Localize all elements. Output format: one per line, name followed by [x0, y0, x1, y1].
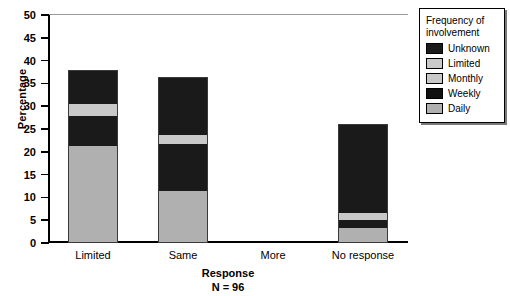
y-tick-label-20: 20	[0, 147, 36, 157]
y-tick-40	[41, 60, 49, 62]
legend-title: Frequency of involvement	[426, 15, 499, 38]
y-tick-30	[41, 105, 49, 107]
bar-segment-limited	[68, 104, 118, 112]
legend-swatch-daily	[426, 103, 443, 114]
bar-segment-daily	[158, 191, 208, 243]
y-tick-label-0: 0	[0, 238, 36, 248]
bar-segment-daily	[338, 228, 388, 243]
y-tick-10	[41, 197, 49, 199]
legend-item-weekly[interactable]: Weekly	[426, 86, 499, 100]
bar-no-response[interactable]	[338, 124, 388, 243]
bar-segment-unknown	[338, 124, 388, 213]
legend-label-daily: Daily	[448, 103, 470, 114]
stacked-bar-chart: Percentage 05101520253035404550 LimitedS…	[0, 0, 510, 296]
legend-item-limited[interactable]: Limited	[426, 56, 499, 70]
legend-label-monthly: Monthly	[448, 73, 483, 84]
legend-item-monthly[interactable]: Monthly	[426, 71, 499, 85]
y-tick-label-10: 10	[0, 192, 36, 202]
legend-swatch-limited	[426, 58, 443, 69]
y-tick-label-15: 15	[0, 170, 36, 180]
y-tick-label-40: 40	[0, 56, 36, 66]
bar-limited[interactable]	[68, 70, 118, 243]
x-axis-title: Response	[48, 267, 408, 280]
y-tick-label-30: 30	[0, 101, 36, 111]
bar-segment-unknown	[68, 70, 118, 104]
y-tick-35	[41, 83, 49, 85]
legend-item-daily[interactable]: Daily	[426, 101, 499, 115]
legend-title-line2: involvement	[426, 27, 499, 39]
legend-swatch-monthly	[426, 73, 443, 84]
bar-same[interactable]	[158, 77, 208, 243]
x-axis-subtitle: N = 96	[48, 281, 408, 293]
bar-segment-limited	[158, 135, 208, 144]
y-tick-50	[41, 14, 49, 16]
legend-label-limited: Limited	[448, 58, 480, 69]
bar-segment-unknown	[158, 77, 208, 135]
bar-segment-weekly	[68, 116, 118, 146]
y-tick-label-35: 35	[0, 78, 36, 88]
x-tick-label-no-response: No response	[308, 249, 418, 261]
y-tick-label-50: 50	[0, 10, 36, 20]
y-tick-0	[41, 242, 49, 244]
legend-title-line1: Frequency of	[426, 15, 499, 27]
y-tick-5	[41, 219, 49, 221]
y-tick-15	[41, 174, 49, 176]
y-tick-25	[41, 128, 49, 130]
legend-label-weekly: Weekly	[448, 88, 481, 99]
bar-segment-weekly	[158, 144, 208, 191]
bar-segment-limited	[338, 213, 388, 220]
bar-segment-weekly	[338, 220, 388, 228]
legend: Frequency of involvement UnknownLimitedM…	[419, 8, 505, 123]
legend-items: UnknownLimitedMonthlyWeeklyDaily	[426, 41, 499, 115]
y-tick-label-25: 25	[0, 124, 36, 134]
bar-segment-daily	[68, 146, 118, 243]
y-tick-label-5: 5	[0, 215, 36, 225]
legend-swatch-weekly	[426, 88, 443, 99]
y-tick-20	[41, 151, 49, 153]
y-tick-label-45: 45	[0, 33, 36, 43]
legend-label-unknown: Unknown	[448, 43, 490, 54]
legend-swatch-unknown	[426, 43, 443, 54]
y-tick-45	[41, 37, 49, 39]
legend-item-unknown[interactable]: Unknown	[426, 41, 499, 55]
